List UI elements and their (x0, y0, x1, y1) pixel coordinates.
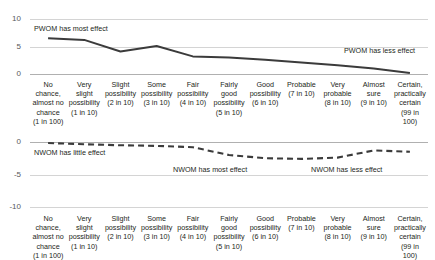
category-tick: Fairpossibility(4 in 10) (175, 80, 211, 126)
category-label: Goodpossibility (248, 214, 282, 232)
category-label: Almostsure (357, 214, 391, 232)
category-tick: Somepossibility(3 in 10) (139, 214, 175, 260)
category-tick: Veryslightpossibility(1 in 10) (66, 214, 102, 260)
category-tick: Almostsure(9 in 10) (356, 214, 392, 260)
pwom-ytick-0: 0 (0, 70, 21, 78)
pwom-ytick-10: 10 (0, 15, 21, 23)
category-probability: (7 in 10) (284, 89, 318, 98)
category-tick: Goodpossibility(6 in 10) (247, 80, 283, 126)
category-label: Somepossibility (140, 80, 174, 98)
category-probability: (1 in 100) (31, 251, 65, 260)
category-tick: Probable(7 in 10) (283, 80, 319, 126)
category-probability: (99 in 100) (393, 108, 427, 126)
category-label: Certain,practicallycertain (393, 214, 427, 242)
nwom-annotation-right: NWOM has less effect (311, 166, 382, 174)
category-probability: (8 in 10) (321, 98, 355, 107)
category-tick: Slightpossibility(2 in 10) (102, 80, 138, 126)
category-probability: (6 in 10) (248, 98, 282, 107)
category-label: No chance,almost nochance (31, 80, 65, 117)
category-tick: No chance,almost nochance(1 in 100) (30, 80, 66, 126)
category-tick: Fairpossibility(4 in 10) (175, 214, 211, 260)
pwom-ytick-5: 5 (0, 43, 21, 51)
pwom-annotation-right: PWOM has less effect (344, 47, 415, 55)
category-label: Veryslightpossibility (67, 80, 101, 108)
category-probability: (7 in 10) (284, 223, 318, 232)
category-probability: (3 in 10) (140, 98, 174, 107)
pwom-category-axis: No chance,almost nochance(1 in 100)Verys… (30, 80, 428, 126)
category-tick: Fairlygoodpossibility(5 in 10) (211, 80, 247, 126)
pwom-plot-area: 10 5 0 PWOM has most effect PWOM has les… (30, 19, 428, 74)
category-label: Goodpossibility (248, 80, 282, 98)
category-probability: (9 in 10) (357, 232, 391, 241)
nwom-category-axis: No chance,almost nochance(1 in 100)Verys… (30, 214, 428, 260)
nwom-ytick-minus10: -10 (0, 203, 21, 211)
category-probability: (4 in 10) (176, 98, 210, 107)
category-tick: Certain,practicallycertain(99 in 100) (392, 80, 428, 126)
category-label: Probable (284, 80, 318, 89)
nwom-annotation-left: NWOM has little effect (34, 149, 105, 157)
pwom-annotation-left: PWOM has most effect (34, 25, 108, 33)
category-label: Fairlygoodpossibility (212, 214, 246, 242)
category-tick: Veryprobable(8 in 10) (320, 214, 356, 260)
category-label: Almostsure (357, 80, 391, 98)
category-tick: Slightpossibility(2 in 10) (102, 214, 138, 260)
category-label: Slightpossibility (103, 80, 137, 98)
category-label: Fairlygoodpossibility (212, 80, 246, 108)
nwom-plot-area: 0 -5 -10 NWOM has little effect NWOM has… (30, 142, 428, 207)
category-label: No chance,almost nochance (31, 214, 65, 251)
category-probability: (8 in 10) (321, 232, 355, 241)
nwom-gridline-minus10 (30, 207, 428, 208)
category-probability: (2 in 10) (103, 98, 137, 107)
nwom-ytick-minus5: -5 (0, 171, 21, 179)
pwom-gridline-0 (30, 74, 428, 75)
category-probability: (3 in 10) (140, 232, 174, 241)
nwom-ytick-0: 0 (0, 138, 21, 146)
category-tick: Veryprobable(8 in 10) (320, 80, 356, 126)
category-tick: No chance,almost nochance(1 in 100) (30, 214, 66, 260)
pwom-chart-panel: 10 5 0 PWOM has most effect PWOM has les… (0, 14, 435, 108)
category-probability: (5 in 10) (212, 108, 246, 117)
category-label: Fairpossibility (176, 80, 210, 98)
category-tick: Goodpossibility(6 in 10) (247, 214, 283, 260)
category-label: Veryslightpossibility (67, 214, 101, 242)
cropped-title (0, 0, 435, 8)
category-tick: Veryslightpossibility(1 in 10) (66, 80, 102, 126)
nwom-annotation-mid: NWOM has most effect (173, 166, 247, 174)
category-tick: Fairlygoodpossibility(5 in 10) (211, 214, 247, 260)
category-label: Certain,practicallycertain (393, 80, 427, 108)
category-probability: (1 in 10) (67, 108, 101, 117)
category-probability: (9 in 10) (357, 98, 391, 107)
category-probability: (6 in 10) (248, 232, 282, 241)
category-label: Probable (284, 214, 318, 223)
nwom-chart-panel: 0 -5 -10 NWOM has little effect NWOM has… (0, 136, 435, 258)
category-probability: (5 in 10) (212, 242, 246, 251)
category-label: Somepossibility (140, 214, 174, 232)
category-tick: Almostsure(9 in 10) (356, 80, 392, 126)
category-probability: (1 in 10) (67, 242, 101, 251)
category-probability: (99 in 100) (393, 242, 427, 260)
category-probability: (4 in 10) (176, 232, 210, 241)
category-probability: (2 in 10) (103, 232, 137, 241)
category-tick: Probable(7 in 10) (283, 214, 319, 260)
category-label: Veryprobable (321, 214, 355, 232)
category-label: Fairpossibility (176, 214, 210, 232)
category-probability: (1 in 100) (31, 117, 65, 126)
category-label: Slightpossibility (103, 214, 137, 232)
category-tick: Certain,practicallycertain(99 in 100) (392, 214, 428, 260)
category-tick: Somepossibility(3 in 10) (139, 80, 175, 126)
category-label: Veryprobable (321, 80, 355, 98)
